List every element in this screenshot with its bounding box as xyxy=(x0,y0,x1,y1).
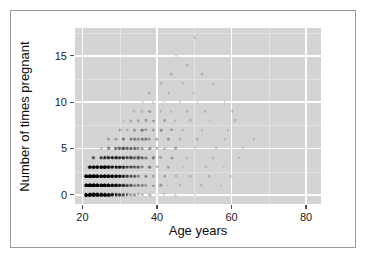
data-point xyxy=(170,128,173,131)
data-point xyxy=(152,175,155,178)
data-point xyxy=(156,138,159,141)
y-axis-title: Number of times pregnant xyxy=(16,28,32,204)
data-point xyxy=(156,166,159,169)
data-point xyxy=(205,165,208,168)
data-point xyxy=(164,175,167,178)
data-point xyxy=(141,193,144,196)
data-point xyxy=(125,175,128,178)
data-point xyxy=(175,147,178,150)
data-point xyxy=(145,129,148,132)
data-point xyxy=(175,54,178,57)
data-point xyxy=(179,138,182,141)
gridline-minor-horizontal xyxy=(75,33,321,34)
data-point xyxy=(148,110,151,113)
data-point xyxy=(92,175,95,178)
figure-frame: 20406080051015 Age years Number of times… xyxy=(10,10,356,248)
data-point xyxy=(242,147,245,150)
data-point xyxy=(118,129,121,132)
y-tick-label: 15 xyxy=(41,50,67,62)
data-point xyxy=(167,138,170,141)
x-tick-mark xyxy=(156,205,157,209)
data-point xyxy=(111,184,114,187)
data-point xyxy=(141,101,144,104)
data-point xyxy=(92,156,95,159)
data-point xyxy=(159,110,162,113)
data-point xyxy=(223,138,226,141)
data-point xyxy=(126,147,129,150)
data-point xyxy=(186,110,189,113)
data-point xyxy=(185,157,188,160)
y-tick-label: 5 xyxy=(41,142,67,154)
data-point xyxy=(166,166,169,169)
data-point xyxy=(133,184,136,187)
data-point xyxy=(208,175,211,178)
data-point xyxy=(133,193,136,196)
data-point xyxy=(138,194,141,197)
data-point xyxy=(114,147,117,150)
data-point xyxy=(144,184,147,187)
data-point xyxy=(159,156,162,159)
y-tick-mark xyxy=(70,194,74,195)
x-tick-mark xyxy=(231,205,232,209)
data-point xyxy=(193,36,196,39)
data-point xyxy=(160,129,163,132)
data-point xyxy=(122,175,125,178)
data-point xyxy=(234,119,237,122)
data-point xyxy=(230,175,233,178)
data-point xyxy=(200,184,203,187)
gridline-minor-horizontal xyxy=(75,172,321,173)
data-point xyxy=(238,157,241,160)
data-point xyxy=(208,119,211,122)
data-point xyxy=(130,119,133,122)
x-tick-mark xyxy=(82,205,83,209)
data-point xyxy=(137,157,140,160)
data-point xyxy=(167,92,170,95)
data-point xyxy=(167,184,170,187)
data-point xyxy=(118,184,121,187)
data-point xyxy=(204,110,207,113)
data-point xyxy=(100,156,103,159)
data-point xyxy=(114,194,117,197)
data-point xyxy=(96,175,99,178)
x-axis-title: Age years xyxy=(75,223,321,238)
data-point xyxy=(133,110,136,113)
data-point xyxy=(125,166,128,169)
data-point xyxy=(211,157,214,160)
data-point xyxy=(125,128,128,131)
data-point xyxy=(133,166,136,169)
data-point xyxy=(196,138,199,141)
data-point xyxy=(137,147,140,150)
data-point xyxy=(145,175,148,178)
data-point xyxy=(133,157,136,160)
data-point xyxy=(175,175,178,178)
x-tick-mark xyxy=(305,205,306,209)
data-point xyxy=(141,110,144,113)
data-point xyxy=(179,101,182,104)
data-point xyxy=(153,128,156,131)
data-point xyxy=(133,138,136,141)
data-point xyxy=(231,110,234,113)
data-point xyxy=(133,129,136,132)
data-point xyxy=(144,156,147,159)
data-point xyxy=(186,64,189,67)
data-point xyxy=(163,193,166,196)
data-point xyxy=(122,119,125,122)
data-point xyxy=(252,138,255,141)
data-point xyxy=(200,129,203,132)
gridline-minor-horizontal xyxy=(75,79,321,80)
gridline-major-horizontal xyxy=(75,148,321,150)
data-point xyxy=(103,175,106,178)
data-point xyxy=(174,194,177,197)
data-point xyxy=(215,147,218,150)
x-tick-label: 40 xyxy=(151,211,163,223)
data-point xyxy=(141,165,144,168)
data-point xyxy=(129,165,132,168)
data-point xyxy=(141,147,144,150)
data-point xyxy=(103,157,106,160)
data-point xyxy=(111,166,114,169)
data-point xyxy=(152,101,155,104)
data-point xyxy=(148,138,151,141)
data-point xyxy=(189,119,192,122)
data-point xyxy=(137,120,140,123)
data-point xyxy=(148,166,151,169)
